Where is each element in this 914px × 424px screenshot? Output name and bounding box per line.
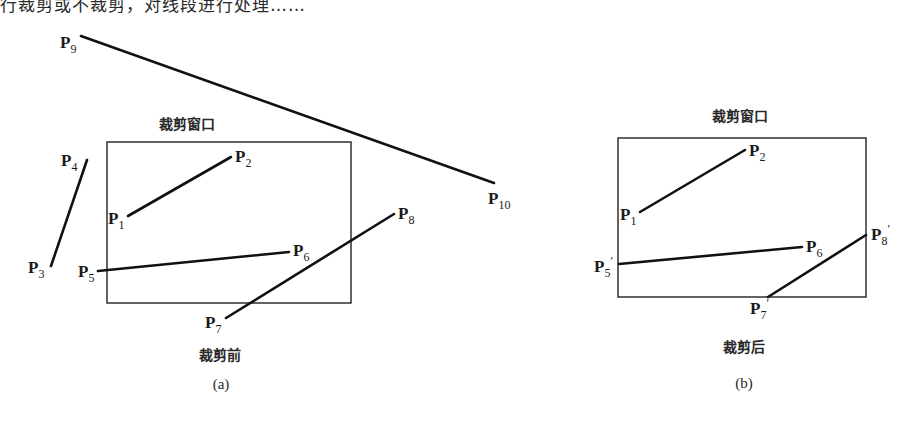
panel-b: 裁剪窗口 P1 P2 P5′ P6 P7′ P8′ 裁剪后 (b)	[594, 108, 890, 392]
point-label-p5: P5	[78, 262, 94, 285]
segment-p1-p2-clipped	[640, 150, 745, 212]
point-label-p5prime: P5′	[594, 254, 613, 280]
point-label-p9: P9	[60, 33, 76, 56]
point-label-p7: P7	[205, 313, 221, 336]
clip-window-a	[107, 142, 351, 303]
panel-a: 裁剪窗口 P1 P2 P3 P4 P5 P6 P7 P8 P9 P10 裁剪前 …	[28, 33, 510, 393]
segment-p7prime-p8prime-clipped	[768, 235, 866, 297]
point-label-p3: P3	[28, 258, 44, 281]
segment-p9-p10	[81, 36, 494, 183]
window-label-b: 裁剪窗口	[712, 108, 768, 124]
point-label-p8prime: P8′	[871, 222, 890, 248]
point-label-p6-b: P6	[806, 237, 822, 260]
point-label-p2: P2	[235, 147, 251, 170]
point-label-p2-b: P2	[749, 141, 765, 164]
segment-p5prime-p6-clipped	[619, 247, 802, 264]
point-label-p4: P4	[61, 151, 77, 174]
point-label-p1: P1	[108, 209, 124, 232]
segment-p1-p2	[128, 157, 231, 216]
point-label-p6: P6	[293, 241, 309, 264]
caption-a: (a)	[213, 376, 230, 393]
point-label-p7prime: P7′	[750, 296, 769, 322]
segment-p5-p6	[98, 252, 289, 271]
clip-window-b	[618, 138, 866, 297]
caption-b: (b)	[735, 375, 753, 392]
state-label-before: 裁剪前	[199, 347, 241, 363]
line-clipping-diagram: 裁剪窗口 P1 P2 P3 P4 P5 P6 P7 P8 P9 P10 裁剪前 …	[0, 0, 914, 424]
point-label-p8: P8	[398, 204, 414, 227]
window-label-a: 裁剪窗口	[159, 116, 215, 132]
point-label-p10: P10	[488, 189, 510, 212]
state-label-after: 裁剪后	[723, 339, 765, 355]
point-label-p1-b: P1	[620, 205, 636, 228]
segment-p3-p4	[51, 160, 87, 266]
